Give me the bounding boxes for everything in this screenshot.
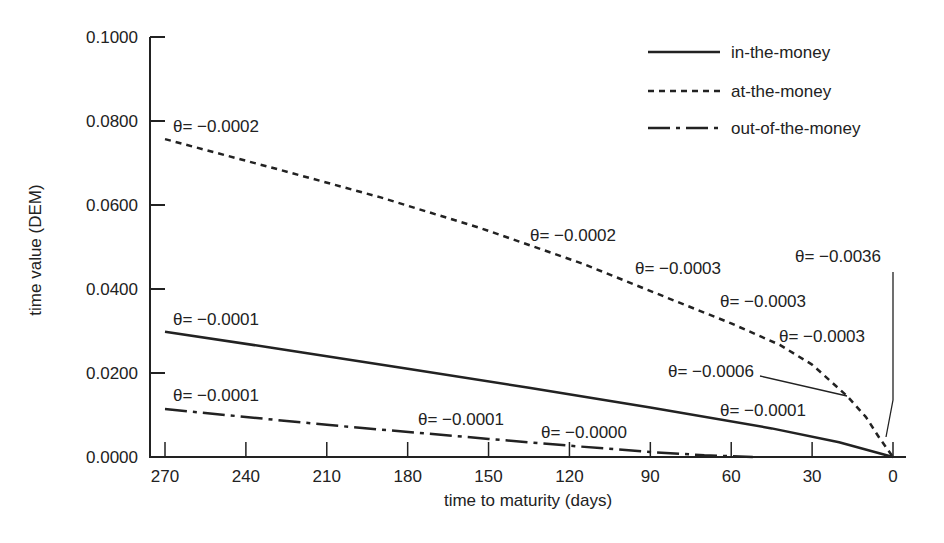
theta-label-at-the-money: θ= −0.0003	[779, 327, 865, 346]
x-ticks: 2702402101801501209060300	[151, 442, 898, 486]
y-tick-label: 0.0800	[86, 112, 138, 131]
y-tick-label: 0.0600	[86, 196, 138, 215]
theta-label-at-the-money: θ= −0.0002	[530, 226, 616, 245]
x-tick-label: 180	[393, 467, 421, 486]
theta-label-in-the-money: θ= −0.0001	[720, 401, 806, 420]
theta-label-at-the-money: θ= −0.0036	[795, 247, 881, 266]
theta-label-at-the-money: θ= −0.0006	[668, 362, 754, 381]
theta-label-out-of-the-money: θ= −0.0001	[173, 386, 259, 405]
y-tick-label: 0.0000	[86, 448, 138, 467]
legend-item-at-the-money: at-the-money	[648, 82, 832, 101]
y-tick-label: 0.0400	[86, 280, 138, 299]
legend-item-in-the-money: in-the-money	[648, 43, 831, 62]
x-axis-title: time to maturity (days)	[444, 491, 612, 510]
leader-line	[886, 272, 893, 437]
x-tick-label: 240	[232, 467, 260, 486]
theta-annotations: θ= −0.0002θ= −0.0002θ= −0.0003θ= −0.0003…	[173, 117, 881, 442]
legend-item-out-of-the-money: out-of-the-money	[648, 119, 861, 138]
y-tick-label: 0.0200	[86, 364, 138, 383]
theta-label-at-the-money: θ= −0.0002	[173, 117, 259, 136]
y-tick-label: 0.1000	[86, 28, 138, 47]
x-tick-label: 0	[888, 467, 897, 486]
theta-label-out-of-the-money: θ= −0.0001	[418, 410, 504, 429]
theta-label-out-of-the-money: θ= −0.0000	[541, 423, 627, 442]
legend-label: at-the-money	[731, 82, 832, 101]
x-tick-label: 210	[313, 467, 341, 486]
theta-label-in-the-money: θ= −0.0001	[173, 310, 259, 329]
x-tick-label: 120	[555, 467, 583, 486]
legend-label: in-the-money	[731, 43, 831, 62]
x-tick-label: 60	[722, 467, 741, 486]
x-tick-label: 270	[151, 467, 179, 486]
y-ticks: 0.00000.02000.04000.06000.08000.1000	[86, 28, 165, 467]
x-tick-label: 30	[803, 467, 822, 486]
x-tick-label: 90	[641, 467, 660, 486]
series-in-the-money	[165, 332, 893, 457]
legend: in-the-money at-the-money out-of-the-mon…	[648, 43, 861, 138]
legend-label: out-of-the-money	[731, 119, 861, 138]
theta-label-at-the-money: θ= −0.0003	[635, 259, 721, 278]
theta-label-at-the-money: θ= −0.0003	[720, 292, 806, 311]
leader-line	[760, 376, 847, 396]
chart: 0.00000.02000.04000.06000.08000.1000 270…	[0, 0, 944, 543]
x-tick-label: 150	[474, 467, 502, 486]
y-axis-title: time value (DEM)	[26, 184, 45, 315]
